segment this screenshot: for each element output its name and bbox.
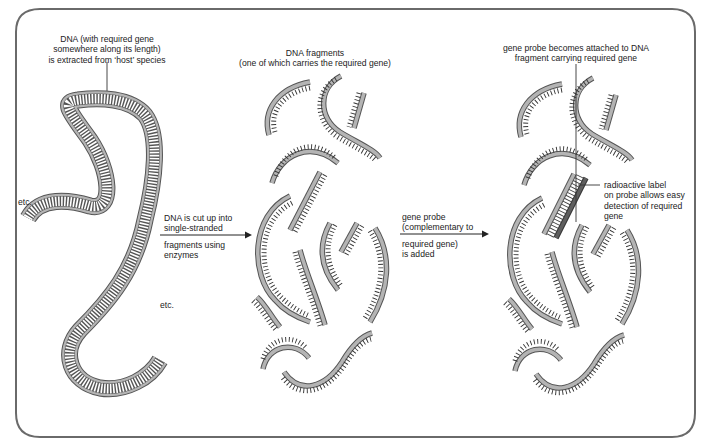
fragment [617, 230, 638, 324]
fragment [283, 333, 372, 391]
arrow-label-line: fragments using [164, 240, 225, 250]
host-dna-caption: DNA (with required gene somewhere along … [42, 34, 172, 65]
host-dna-double-strand [28, 62, 160, 389]
fragment [295, 250, 325, 326]
arrow-probe-label-above: gene probe (complementary to [402, 212, 473, 233]
fragment [524, 149, 590, 185]
arrow-label-line: (complementary to [402, 222, 473, 232]
end-label-etc-left: etc. [18, 197, 32, 207]
caption-line: radioactive label [604, 180, 685, 190]
caption-line: DNA fragments [230, 48, 400, 58]
arrow-label-line: DNA is cut up into [164, 213, 232, 223]
arrow-label-line: is added [402, 249, 458, 259]
fragment [572, 78, 632, 163]
caption-line: somewhere along its length) [42, 44, 172, 54]
arrow-label-line: enzymes [164, 250, 225, 260]
fragment [547, 252, 577, 328]
fragment [349, 93, 364, 128]
fragment [267, 82, 310, 135]
arrow-label-line: required gene) [402, 239, 458, 249]
fragment [290, 172, 325, 232]
probe-attached-caption: gene probe becomes attached to DNA fragm… [476, 43, 676, 64]
fragment [519, 84, 562, 137]
dna-fragments-group [253, 76, 386, 391]
fragment [263, 339, 309, 369]
arrow-label-line: gene probe [402, 212, 473, 222]
caption-line: gene [604, 211, 685, 221]
caption-line: DNA (with required gene [42, 34, 172, 44]
fragment [272, 147, 338, 183]
arrow-cut-label-above: DNA is cut up into single-stranded [164, 213, 232, 234]
fragment [320, 76, 380, 161]
arrow-cut-label-below: fragments using enzymes [164, 240, 225, 261]
caption-line: detection of required [604, 201, 685, 211]
arrow-label-line: single-stranded [164, 223, 232, 233]
caption-line: on probe allows easy [604, 190, 685, 200]
fragment [574, 225, 594, 292]
caption-line: fragment carrying required gene [476, 53, 676, 63]
caption-line: gene probe becomes attached to DNA [476, 43, 676, 53]
end-label-etc-right: etc. [160, 300, 174, 310]
caption-line: (one of which carries the required gene) [230, 58, 400, 68]
fragment [341, 223, 362, 255]
probe-stage-fragments-group [505, 78, 638, 393]
fragment [515, 341, 561, 371]
fragment [322, 223, 342, 290]
fragment [535, 335, 624, 393]
fragment [601, 95, 616, 130]
caption-line: is extracted from ‘host’ species [42, 55, 172, 65]
arrow-probe-label-below: required gene) is added [402, 239, 458, 260]
dna-fragments-caption: DNA fragments (one of which carries the … [230, 48, 400, 69]
fragment [365, 228, 386, 322]
radioactive-label-caption: radioactive label on probe allows easy d… [604, 180, 685, 222]
fragment [593, 225, 614, 257]
